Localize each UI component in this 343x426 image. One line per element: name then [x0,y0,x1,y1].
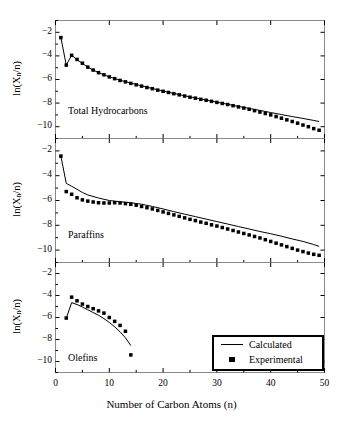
panel-note-total-hydrocarbons: Total Hydrocarbons [68,105,148,116]
series-markers-experimental-panel-1 [59,154,321,257]
legend-label-calculated: Calculated [245,339,292,350]
y-tick-label-1--8: −8 [26,219,52,229]
legend-item-experimental: Experimental [214,352,322,367]
y-tick-label-1--2: −2 [26,144,52,154]
x-tick-label-20: 20 [151,378,175,388]
legend-square-icon [219,357,245,363]
y-tick-label-0--2: −2 [26,26,52,36]
y-tick-label-2--2: −2 [26,267,52,277]
x-tick-label-50: 50 [313,378,337,388]
x-tick-label-30: 30 [205,378,229,388]
x-tick-label-10: 10 [97,378,121,388]
y-axis-label-panel-1: ln(Xn/n) [11,144,24,254]
y-tick-label-1--4: −4 [26,169,52,179]
panel-note-olefins: Olefins [68,352,97,363]
y-tick-label-0--4: −4 [26,49,52,59]
legend-line-icon [219,344,245,345]
x-tick-label-0: 0 [44,378,68,388]
x-tick-label-40: 40 [259,378,283,388]
legend-item-calculated: Calculated [214,337,322,352]
y-tick-label-1--6: −6 [26,194,52,204]
panel-frame-0 [56,21,325,139]
series-markers-experimental-panel-2 [65,295,133,356]
y-tick-label-2--8: −8 [26,333,52,343]
y-tick-label-1--10: −10 [26,244,52,254]
legend: Calculated Experimental [212,335,324,371]
series-markers-experimental-panel-0 [59,36,321,132]
y-axis-label-panel-0: ln(Xn/n) [11,23,24,133]
panel-frame-1 [56,139,325,263]
legend-label-experimental: Experimental [245,354,303,365]
y-tick-label-0--6: −6 [26,73,52,83]
x-axis-label: Number of Carbon Atoms (n) [0,398,343,410]
panel-note-paraffins: Paraffins [68,229,104,240]
y-tick-label-0--8: −8 [26,97,52,107]
y-axis-label-panel-2: ln(Xn/n) [11,261,24,371]
y-tick-label-2--6: −6 [26,311,52,321]
y-tick-label-2--10: −10 [26,355,52,365]
y-tick-label-0--10: −10 [26,120,52,130]
y-tick-label-2--4: −4 [26,289,52,299]
